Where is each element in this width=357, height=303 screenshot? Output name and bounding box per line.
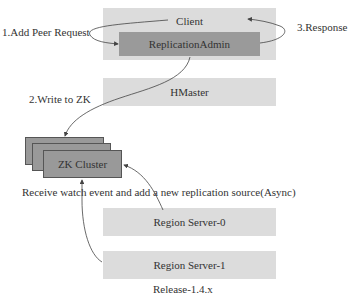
watch-event-arrow-rs0: [124, 165, 163, 210]
write-to-zk-arrow: [65, 57, 190, 136]
add-peer-request-arrow: [90, 20, 168, 44]
arrows-layer: [0, 0, 357, 303]
response-arrow: [248, 19, 285, 43]
watch-event-arrow-rs1: [82, 180, 102, 262]
